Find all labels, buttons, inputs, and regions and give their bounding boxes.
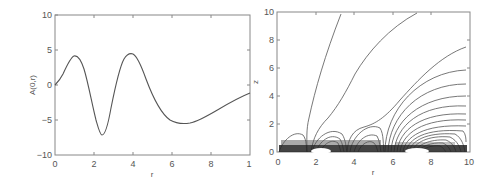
a-of-r-curve [55, 54, 250, 135]
right-x-tick-4: 4 [351, 157, 356, 167]
left-x-tick-2: 2 [91, 159, 96, 169]
right-y-tick-2: 2 [269, 119, 274, 129]
left-y-axis-label: A(0,r) [28, 75, 37, 95]
left-y-tick-neg5: −5 [42, 115, 52, 125]
right-x-tick-8: 8 [428, 157, 433, 167]
left-x-tick-10: 1 [246, 159, 251, 169]
left-plot-frame [55, 15, 250, 155]
left-y-tick-5: 5 [47, 45, 52, 55]
left-plot: 10 5 0 −5 −10 0 2 4 6 8 1 r A(0,r) [28, 10, 252, 179]
right-y-tick-6: 6 [269, 63, 274, 73]
right-x-tick-0: 0 [275, 157, 280, 167]
left-x-tick-6: 6 [169, 159, 174, 169]
left-x-axis-label: r [151, 170, 154, 179]
left-y-tick-0: 0 [47, 80, 52, 90]
left-x-tick-4: 4 [130, 159, 135, 169]
left-x-tick-0: 0 [52, 159, 57, 169]
right-y-tick-8: 8 [269, 35, 274, 45]
right-y-tick-4: 4 [269, 91, 274, 101]
right-y-axis-label: z [251, 80, 260, 84]
figure: 10 5 0 −5 −10 0 2 4 6 8 1 r A(0,r) 10 8 … [0, 0, 498, 183]
left-y-tick-neg10: −10 [37, 150, 52, 160]
right-x-tick-6: 6 [390, 157, 395, 167]
left-y-tick-10: 10 [42, 10, 52, 20]
left-y-ticks [55, 15, 250, 155]
left-x-tick-8: 8 [208, 159, 213, 169]
right-y-tick-0: 0 [269, 147, 274, 157]
right-x-tick-10: 10 [464, 157, 474, 167]
right-x-axis-label: r [372, 168, 375, 177]
contour-lines [279, 13, 467, 154]
right-y-tick-10: 10 [264, 7, 274, 17]
right-plot: 10 8 6 4 2 0 0 2 4 6 8 10 r z [251, 7, 474, 177]
right-x-tick-2: 2 [313, 157, 318, 167]
